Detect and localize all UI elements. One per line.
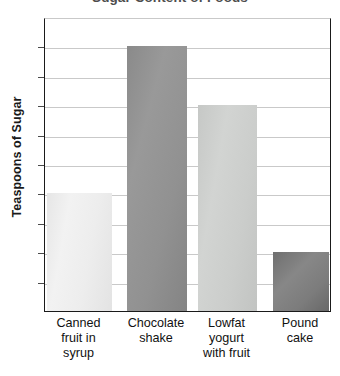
gridline [45, 107, 330, 108]
x-axis-label: Poundcake [250, 316, 340, 346]
gridline [45, 166, 330, 167]
x-axis-label-line: with fruit [177, 346, 277, 361]
y-axis-title: Teaspoons of Sugar [10, 67, 24, 247]
bar [273, 252, 329, 311]
gridline [45, 78, 330, 79]
bar [127, 46, 187, 311]
bar [47, 193, 112, 311]
bar-chart: Sugar Content of Foods Teaspoons of Suga… [0, 0, 340, 376]
x-axis-label-line: Pound [250, 316, 340, 331]
gridline [45, 48, 330, 49]
x-axis-label-line: syrup [29, 346, 129, 361]
bar [198, 105, 257, 311]
gridline [45, 137, 330, 138]
plot-area [44, 18, 331, 312]
chart-title: Sugar Content of Foods [0, 0, 340, 6]
x-axis-label-line: cake [250, 331, 340, 346]
